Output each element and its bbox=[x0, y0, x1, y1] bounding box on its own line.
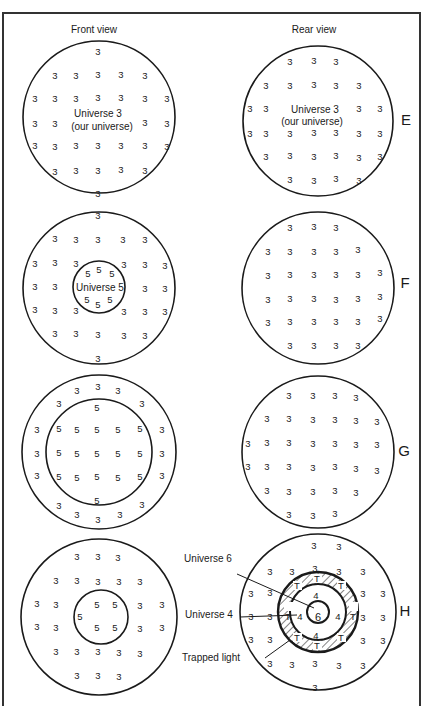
rear-f-universe3-circle bbox=[242, 212, 394, 364]
row-letter-f: F bbox=[400, 274, 409, 291]
rear-e-label-line2: (our universe) bbox=[281, 117, 343, 127]
diagram-shapes bbox=[0, 0, 428, 706]
front-e-label-line2: (our universe) bbox=[71, 122, 133, 132]
rear-e-label-line1: Universe 3 bbox=[291, 105, 339, 115]
universe6-symbol: 6 bbox=[315, 612, 321, 623]
row-letter-h: H bbox=[400, 602, 411, 619]
rear-g-universe3-circle bbox=[242, 376, 394, 528]
row-letter-e: E bbox=[401, 111, 411, 128]
universe-diagram: Front view Rear view bbox=[0, 0, 428, 706]
annotation-universe4: Universe 4 bbox=[185, 610, 233, 620]
row-letter-g: G bbox=[398, 442, 410, 459]
front-e-label-line1: Universe 3 bbox=[74, 109, 122, 119]
front-f-universe5-label: Universe 5 bbox=[76, 283, 124, 293]
annotation-trapped-light: Trapped light bbox=[182, 653, 240, 663]
annotation-universe6: Universe 6 bbox=[184, 554, 232, 564]
